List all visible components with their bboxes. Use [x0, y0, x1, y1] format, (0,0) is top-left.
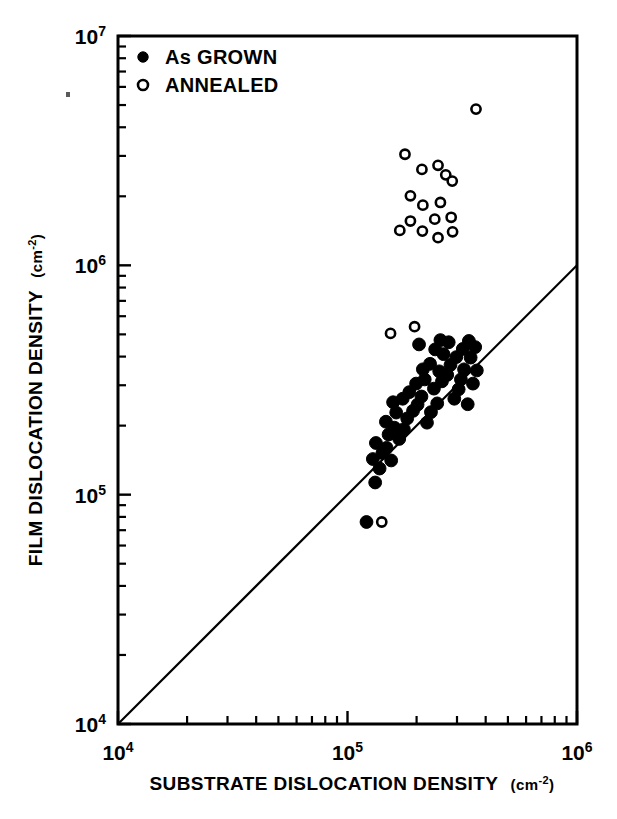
data-point-as-grown — [385, 454, 398, 467]
y-tick-label-mantissa: 10 — [75, 25, 98, 48]
data-point-annealed — [418, 201, 427, 210]
data-point-annealed — [448, 227, 457, 236]
x-axis-title-text: SUBSTRATE DISLOCATION DENSITY — [150, 773, 499, 794]
data-point-annealed — [448, 176, 457, 185]
svg-text:FILM DISLOCATION DENSITY: FILM DISLOCATION DENSITY (cm-2) — [25, 234, 46, 567]
identity-reference-line — [118, 265, 577, 724]
data-point-as-grown — [470, 364, 483, 377]
x-tick-label-mantissa: 10 — [561, 741, 584, 764]
x-tick-label-mantissa: 10 — [332, 741, 355, 764]
data-point-annealed — [377, 517, 386, 526]
data-point-annealed — [436, 198, 445, 207]
series-as-grown-points — [360, 334, 483, 529]
data-point-annealed — [400, 150, 409, 159]
legend-marker-as-grown — [138, 52, 148, 62]
data-point-annealed — [418, 227, 427, 236]
data-point-as-grown — [467, 377, 480, 390]
data-point-annealed — [433, 233, 442, 242]
data-point-annealed — [471, 105, 480, 114]
x-tick-label-exponent: 6 — [585, 739, 593, 755]
y-tick-label-exponent: 6 — [98, 252, 106, 268]
figure-container: 104105106107 104105106 FILM DISLOCATION … — [0, 0, 617, 819]
data-point-as-grown — [431, 397, 444, 410]
data-point-as-grown — [434, 334, 447, 347]
y-axis-title: FILM DISLOCATION DENSITY (cm-2) — [25, 234, 46, 567]
y-axis-title-text: FILM DISLOCATION DENSITY — [25, 290, 46, 566]
x-axis-title: SUBSTRATE DISLOCATION DENSITY (cm-2) — [150, 773, 555, 794]
data-point-as-grown — [380, 415, 393, 428]
data-point-as-grown — [415, 390, 428, 403]
x-axis-unit-close: ) — [549, 776, 554, 793]
y-axis-unit-close: ) — [28, 234, 45, 239]
data-point-annealed — [430, 215, 439, 224]
y-tick-label-mantissa: 10 — [75, 484, 98, 507]
x-tick-label: 105 — [332, 739, 363, 764]
x-tick-label-exponent: 5 — [355, 739, 363, 755]
data-point-annealed — [433, 161, 442, 170]
scatter-plot: 104105106107 104105106 FILM DISLOCATION … — [0, 0, 617, 819]
y-tick-label: 105 — [75, 482, 106, 507]
plot-frame — [118, 36, 577, 724]
y-tick-label-exponent: 4 — [98, 711, 106, 727]
y-tick-label: 107 — [75, 23, 106, 48]
x-axis-ticks — [118, 711, 577, 724]
x-axis-unit-base: (cm — [511, 776, 539, 793]
data-point-annealed — [395, 226, 404, 235]
y-axis-unit-exponent: -2 — [26, 239, 38, 250]
y-tick-label: 106 — [75, 252, 106, 277]
data-point-as-grown — [360, 516, 373, 529]
y-axis-tick-labels: 104105106107 — [75, 23, 106, 736]
x-tick-label-mantissa: 10 — [102, 741, 125, 764]
y-tick-label-exponent: 5 — [98, 482, 106, 498]
data-point-annealed — [386, 329, 395, 338]
legend-marker-annealed — [138, 80, 148, 90]
y-tick-label-mantissa: 10 — [75, 713, 98, 736]
data-point-annealed — [410, 322, 419, 331]
data-point-annealed — [417, 165, 426, 174]
legend-label-as-grown: As GROWN — [165, 46, 277, 68]
data-point-as-grown — [369, 476, 382, 489]
y-axis-unit-base: (cm — [28, 250, 45, 278]
data-point-as-grown — [413, 338, 426, 351]
y-tick-label-mantissa: 10 — [75, 254, 98, 277]
svg-text:SUBSTRATE DISLOCATION DENSITY: SUBSTRATE DISLOCATION DENSITY (cm-2) — [150, 773, 555, 794]
x-tick-label-exponent: 4 — [126, 739, 134, 755]
scan-artifact-speck — [66, 92, 70, 97]
data-point-as-grown — [370, 437, 383, 450]
y-axis-ticks — [118, 36, 131, 724]
data-point-as-grown — [458, 363, 471, 376]
x-axis-tick-labels: 104105106 — [102, 739, 592, 764]
data-point-annealed — [406, 216, 415, 225]
data-point-as-grown — [461, 398, 474, 411]
data-point-annealed — [447, 213, 456, 222]
x-axis-unit-exponent: -2 — [538, 774, 549, 786]
x-tick-label: 106 — [561, 739, 592, 764]
y-tick-label-exponent: 7 — [98, 23, 106, 39]
legend-label-annealed: ANNEALED — [165, 74, 279, 96]
x-tick-label: 104 — [102, 739, 133, 764]
legend: As GROWN ANNEALED — [138, 46, 279, 96]
data-point-as-grown — [469, 341, 482, 354]
data-point-annealed — [406, 191, 415, 200]
y-tick-label: 104 — [75, 711, 106, 736]
